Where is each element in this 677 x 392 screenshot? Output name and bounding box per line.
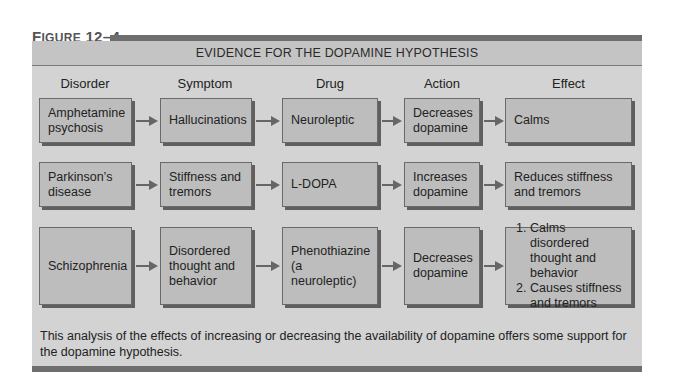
arrow-icon: [382, 184, 400, 186]
row1-disorder-box: Amphetamine psychosis: [39, 98, 132, 143]
row2-symptom-box: Stiffness and tremors: [160, 162, 252, 207]
column-header-symptom: Symptom: [160, 76, 250, 91]
column-header-drug: Drug: [282, 76, 378, 91]
row2-effect-box: Reduces stiffness and tremors: [505, 162, 632, 207]
row1-drug: Neuroleptic: [291, 113, 354, 128]
row2-effect: Reduces stiffness and tremors: [514, 170, 623, 200]
column-header-effect: Effect: [505, 76, 632, 91]
row3-effect-box: Calms disordered thought and behavior Ca…: [505, 227, 632, 305]
row2-symptom: Stiffness and tremors: [169, 170, 243, 200]
arrow-icon: [256, 265, 278, 267]
row2-drug-box: L-DOPA: [282, 162, 378, 207]
row1-disorder: Amphetamine psychosis: [48, 106, 125, 136]
figure-panel: EVIDENCE FOR THE DOPAMINE HYPOTHESIS Dis…: [32, 41, 642, 372]
row1-effect-box: Calms: [505, 98, 632, 143]
arrow-icon: [256, 120, 278, 122]
row1-action-box: Decreases dopamine: [404, 98, 480, 143]
row2-disorder: Parkinson’s disease: [48, 170, 123, 200]
row1-action: Decreases dopamine: [413, 106, 473, 136]
arrow-icon: [382, 120, 400, 122]
row3-symptom-box: Disordered thought and behavior: [160, 227, 252, 305]
column-header-disorder: Disorder: [40, 76, 130, 91]
arrow-icon: [484, 184, 502, 186]
column-header-action: Action: [404, 76, 480, 91]
row3-symptom: Disordered thought and behavior: [169, 244, 243, 289]
row1-effect: Calms: [514, 113, 549, 128]
row3-drug: Phenothiazine (a neuroleptic): [291, 244, 370, 289]
row3-disorder: Schizophrenia: [48, 259, 127, 274]
bottom-rule: [32, 366, 642, 372]
row3-effect-item: Causes stiffness and tremors: [530, 281, 623, 311]
row2-action: Increases dopamine: [413, 170, 471, 200]
row2-action-box: Increases dopamine: [404, 162, 480, 207]
row1-symptom-box: Hallucinations: [160, 98, 252, 143]
arrow-icon: [256, 184, 278, 186]
row1-symptom: Hallucinations: [169, 113, 247, 128]
arrow-icon: [136, 184, 156, 186]
row3-effect-list: Calms disordered thought and behavior Ca…: [514, 221, 623, 311]
row2-drug: L-DOPA: [291, 177, 337, 192]
header-band: EVIDENCE FOR THE DOPAMINE HYPOTHESIS: [32, 41, 642, 66]
row2-disorder-box: Parkinson’s disease: [39, 162, 132, 207]
row3-disorder-box: Schizophrenia: [39, 227, 132, 305]
arrow-icon: [382, 265, 400, 267]
row3-drug-box: Phenothiazine (a neuroleptic): [282, 227, 378, 305]
figure-caption: This analysis of the effects of increasi…: [40, 328, 630, 360]
figure-title: EVIDENCE FOR THE DOPAMINE HYPOTHESIS: [32, 46, 642, 60]
arrow-icon: [484, 120, 502, 122]
row3-action: Decreases dopamine: [413, 251, 473, 281]
arrow-icon: [136, 265, 156, 267]
row3-action-box: Decreases dopamine: [404, 227, 480, 305]
arrow-icon: [136, 120, 156, 122]
row3-effect-item: Calms disordered thought and behavior: [530, 221, 623, 281]
row1-drug-box: Neuroleptic: [282, 98, 378, 143]
arrow-icon: [484, 265, 502, 267]
